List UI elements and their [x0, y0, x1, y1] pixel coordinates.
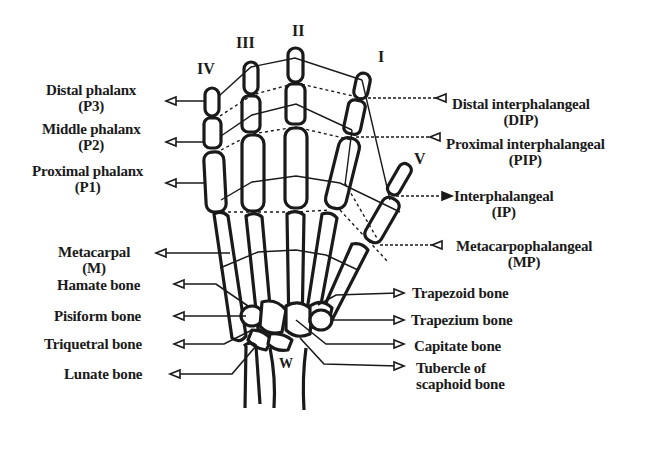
- label-distal-phalanx: Distal phalanx (P3): [46, 82, 136, 114]
- label-abbr: (PIP): [446, 152, 605, 168]
- label-abbr: (P2): [42, 137, 140, 153]
- label-hamate-bone: Hamate bone: [57, 277, 140, 293]
- label-name: Distal interphalangeal: [452, 96, 590, 112]
- finger-iii-bones: [242, 62, 272, 333]
- finger-numeral-i: I: [378, 48, 384, 66]
- forearm-bones: [244, 343, 306, 410]
- label-name: Middle phalanx: [42, 121, 140, 137]
- label-abbr: (IP): [454, 204, 554, 220]
- label-name: Metacarpophalangeal: [456, 238, 592, 254]
- label-name: Proximal interphalangeal: [446, 136, 605, 152]
- label-tubercle-of-scaphoid-bone: Tubercle of scaphoid bone: [416, 360, 505, 392]
- label-pisiform-bone: Pisiform bone: [54, 308, 141, 324]
- label-metacarpal: Metacarpal (M): [58, 244, 130, 276]
- label-metacarpophalangeal: Metacarpophalangeal (MP): [456, 238, 592, 270]
- label-abbr: (M): [58, 260, 130, 276]
- label-name: Tubercle of: [416, 360, 486, 376]
- label-proximal-phalanx: Proximal phalanx (P1): [32, 163, 143, 195]
- hand-skeleton-drawing: [0, 0, 664, 460]
- wrist-label: W: [279, 356, 293, 372]
- finger-numeral-iv: IV: [197, 60, 215, 78]
- label-abbr: (MP): [456, 254, 592, 270]
- finger-iv-bones: [203, 88, 246, 341]
- finger-numeral-v: V: [414, 150, 426, 168]
- label-capitate-bone: Capitate bone: [414, 338, 501, 354]
- label-trapezoid-bone: Trapezoid bone: [412, 285, 509, 301]
- label-interphalangeal: Interphalangeal (IP): [454, 188, 554, 220]
- label-abbr: scaphoid bone: [416, 376, 505, 392]
- label-abbr: (P1): [32, 179, 143, 195]
- finger-ii-bones: [285, 48, 307, 334]
- label-abbr: (DIP): [452, 112, 590, 128]
- label-name: Interphalangeal: [454, 188, 554, 204]
- label-trapezium-bone: Trapezium bone: [411, 312, 513, 328]
- label-name: Metacarpal: [58, 244, 130, 260]
- label-proximal-interphalangeal: Proximal interphalangeal (PIP): [446, 136, 605, 168]
- label-name: Proximal phalanx: [32, 163, 143, 179]
- label-middle-phalanx: Middle phalanx (P2): [42, 121, 140, 153]
- label-abbr: (P3): [46, 98, 136, 114]
- label-distal-interphalangeal: Distal interphalangeal (DIP): [452, 96, 590, 128]
- label-lunate-bone: Lunate bone: [64, 366, 142, 382]
- finger-numeral-ii: II: [292, 22, 304, 40]
- label-triquetral-bone: Triquetral bone: [44, 336, 142, 352]
- finger-numeral-iii: III: [236, 34, 255, 52]
- label-name: Distal phalanx: [46, 82, 136, 98]
